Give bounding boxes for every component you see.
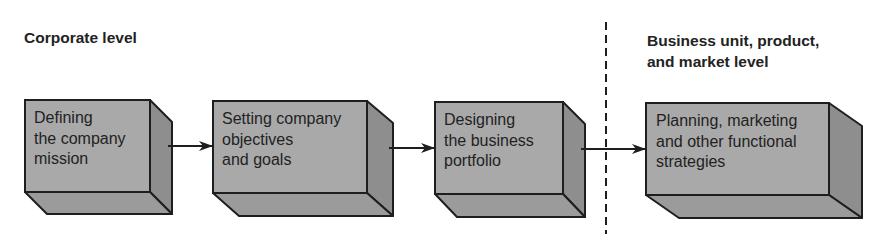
box-label-defining-mission: Defining the company mission bbox=[34, 108, 126, 170]
box-label-designing-portfolio: Designing the business portfolio bbox=[444, 110, 534, 172]
box-label-functional-strategies: Planning, marketing and other functional… bbox=[656, 111, 797, 173]
box-label-setting-objectives: Setting company objectives and goals bbox=[222, 109, 341, 171]
